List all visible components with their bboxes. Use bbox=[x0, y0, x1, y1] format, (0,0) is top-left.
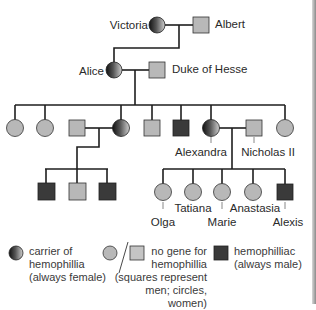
albert-square-icon bbox=[193, 17, 209, 33]
anastasia-circle-icon bbox=[245, 184, 262, 201]
legend-carrier-icon bbox=[9, 246, 23, 260]
legend-no-gene: no gene for hemophillia (squares represe… bbox=[110, 245, 207, 310]
page-edge bbox=[312, 0, 316, 304]
legend-text: (always female) bbox=[29, 271, 106, 284]
grandson-1-hemophiliac-icon bbox=[38, 183, 55, 200]
legend-text: no gene for bbox=[110, 245, 207, 258]
legend-carrier: carrier of hemophillia (always female) bbox=[29, 245, 106, 284]
marie-circle-icon bbox=[214, 184, 231, 201]
albert-label: Albert bbox=[215, 18, 246, 30]
pedigree-lines bbox=[15, 25, 285, 184]
son-square-icon bbox=[144, 120, 160, 136]
daughter-carrier-icon bbox=[113, 120, 130, 137]
alexandra-label: Alexandra bbox=[175, 146, 227, 158]
alice-label: Alice bbox=[79, 65, 104, 77]
victoria-carrier-icon bbox=[149, 17, 165, 33]
legend-hemophiliac-icon bbox=[214, 246, 228, 260]
anastasia-label: Anastasia bbox=[230, 202, 281, 214]
alexis-label: Alexis bbox=[273, 216, 304, 228]
grandson-3-hemophiliac-icon bbox=[99, 183, 116, 200]
spouse-square-icon bbox=[69, 120, 85, 136]
olga-circle-icon bbox=[155, 184, 172, 201]
grandson-2-square-icon bbox=[69, 183, 86, 200]
daughter-1-circle-icon bbox=[7, 120, 24, 137]
marie-label: Marie bbox=[208, 216, 237, 228]
legend-text: (always male) bbox=[234, 258, 302, 271]
daughter-last-circle-icon bbox=[277, 120, 294, 137]
nicholas-label: Nicholas II bbox=[241, 146, 295, 158]
alexis-hemophiliac-icon bbox=[277, 184, 293, 200]
legend-text: men; circles, women) bbox=[110, 284, 207, 310]
victoria-label: Victoria bbox=[110, 19, 149, 31]
legend-text: hemophillia bbox=[29, 258, 106, 271]
alice-carrier-icon bbox=[106, 62, 122, 78]
tatiana-label: Tatiana bbox=[174, 202, 212, 214]
daughter-2-circle-icon bbox=[37, 120, 54, 137]
legend-hemophiliac: hemophilliac (always male) bbox=[234, 245, 302, 271]
son-hemophiliac-icon bbox=[173, 120, 189, 136]
olga-label: Olga bbox=[151, 216, 176, 228]
legend-text: hemophillia bbox=[110, 258, 207, 271]
tatiana-circle-icon bbox=[185, 184, 202, 201]
duke-label: Duke of Hesse bbox=[172, 63, 247, 75]
legend-text: carrier of bbox=[29, 245, 106, 258]
legend-text: (squares represent bbox=[110, 271, 207, 284]
duke-square-icon bbox=[149, 62, 165, 78]
nicholas-square-icon bbox=[246, 120, 262, 136]
alexandra-carrier-icon bbox=[203, 120, 220, 137]
legend-text: hemophilliac bbox=[234, 245, 302, 258]
